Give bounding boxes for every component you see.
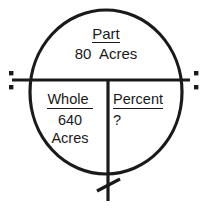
whole-cell: Whole 640 Acres: [34, 92, 106, 147]
percent-circle-diagram: Part 80 Acres Whole 640 Acres Percent ?: [0, 0, 212, 213]
percent-label: Percent: [113, 92, 163, 109]
part-value: 80 Acres: [30, 46, 182, 62]
percent-value: ?: [113, 113, 189, 129]
part-cell: Part 80 Acres: [30, 26, 182, 62]
part-label: Part: [92, 26, 120, 43]
whole-label: Whole: [47, 92, 92, 109]
diagram-label-layer: Part 80 Acres Whole 640 Acres Percent ?: [0, 0, 212, 213]
whole-value: 640: [34, 113, 106, 129]
whole-unit: Acres: [34, 131, 106, 147]
percent-cell: Percent ?: [113, 92, 189, 128]
